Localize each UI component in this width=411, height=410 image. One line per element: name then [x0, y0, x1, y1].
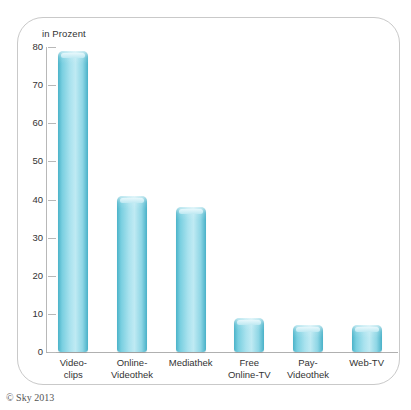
- bar: [293, 325, 323, 352]
- y-axis-tick-mark: [48, 85, 56, 86]
- y-axis-tick-mark: [48, 352, 56, 353]
- bar: [234, 318, 264, 352]
- y-axis-tick-label: 70: [32, 79, 43, 90]
- bar-chart: in Prozent 01020304050607080 Video- clip…: [0, 0, 411, 410]
- bar: [176, 207, 206, 352]
- x-axis-line: [46, 352, 398, 353]
- bar: [352, 325, 382, 352]
- y-axis-unit-caption: in Prozent: [42, 28, 86, 39]
- y-axis-tick-mark: [48, 200, 56, 201]
- bar: [58, 51, 88, 352]
- y-axis-tick-label: 20: [32, 270, 43, 281]
- x-axis-category-label: Video- clips: [44, 357, 103, 381]
- y-axis-tick-mark: [48, 161, 56, 162]
- y-axis-tick: 70: [0, 85, 56, 86]
- y-axis-tick-mark: [48, 314, 56, 315]
- y-axis-tick: 50: [0, 161, 56, 162]
- bar: [117, 196, 147, 352]
- y-axis-tick-mark: [48, 123, 56, 124]
- y-axis-tick-label: 30: [32, 232, 43, 243]
- x-axis-category-label: Web-TV: [337, 357, 396, 369]
- x-axis-category-label: Pay- Videothek: [279, 357, 338, 381]
- x-axis-category-label: Free Online-TV: [220, 357, 279, 381]
- y-axis-tick: 60: [0, 123, 56, 124]
- y-axis-tick-mark: [48, 47, 56, 48]
- x-axis-category-label: Mediathek: [161, 357, 220, 369]
- copyright-credit: © Sky 2013: [6, 392, 54, 403]
- y-axis-tick: 20: [0, 276, 56, 277]
- y-axis-tick: 40: [0, 200, 56, 201]
- y-axis-tick-label: 0: [38, 346, 43, 357]
- y-axis-tick: 80: [0, 47, 56, 48]
- y-axis-tick: 30: [0, 238, 56, 239]
- y-axis-tick: 10: [0, 314, 56, 315]
- y-axis-tick-mark: [48, 276, 56, 277]
- y-axis-tick-label: 50: [32, 155, 43, 166]
- y-axis-tick-label: 60: [32, 117, 43, 128]
- x-axis-category-label: Online- Videothek: [103, 357, 162, 381]
- y-axis-tick-mark: [48, 238, 56, 239]
- y-axis-tick-label: 40: [32, 194, 43, 205]
- y-axis-tick-label: 10: [32, 308, 43, 319]
- y-axis-tick-label: 80: [32, 41, 43, 52]
- y-axis-tick: 0: [0, 352, 56, 353]
